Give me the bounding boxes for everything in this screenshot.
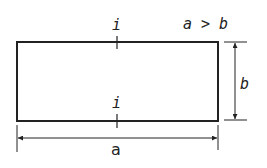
label-a: a [111,140,121,159]
rectangle-diagram: i i a > b b a [0,0,267,168]
label-i-bottom: i [112,94,121,112]
label-b: b [240,75,249,93]
label-condition: a > b [183,15,228,33]
label-i-top: i [112,16,121,34]
